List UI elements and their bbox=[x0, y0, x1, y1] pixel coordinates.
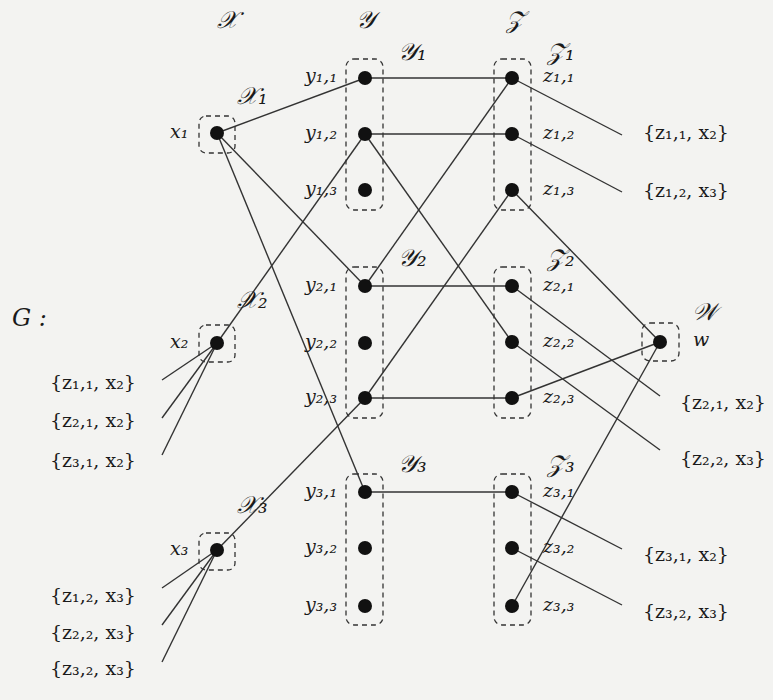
node-z22 bbox=[505, 335, 519, 349]
group-label-Y2: 𝒴₂ bbox=[398, 246, 427, 270]
node-y21 bbox=[358, 279, 372, 293]
label-y21: y₂,₁ bbox=[305, 275, 337, 294]
group-label-X2: 𝒳₂ bbox=[237, 288, 268, 312]
edge-z13-w bbox=[512, 190, 660, 342]
group-label-Y3: 𝒴₃ bbox=[398, 452, 427, 476]
set-label-left-x2-2: {z₂,₁, x₂} bbox=[50, 411, 136, 430]
label-x2: x₂ bbox=[170, 332, 188, 351]
set-label-right-2: {z₁,₂, x₃} bbox=[643, 181, 729, 200]
edges bbox=[162, 78, 660, 662]
label-y31: y₃,₁ bbox=[305, 481, 337, 500]
node-x3 bbox=[210, 543, 224, 557]
node-z13 bbox=[505, 183, 519, 197]
label-y12: y₁,₂ bbox=[305, 123, 337, 142]
set-label-right-4: {z₂,₂, x₃} bbox=[680, 449, 766, 468]
graph-label: G : bbox=[12, 306, 47, 330]
edge-x3-set2 bbox=[162, 550, 217, 625]
edge-z21-set bbox=[512, 286, 660, 396]
node-z33 bbox=[505, 599, 519, 613]
set-label-right-6: {z₃,₂, x₃} bbox=[643, 602, 729, 621]
edge-x2-set2 bbox=[162, 343, 217, 418]
edge-y23-z13 bbox=[365, 190, 512, 398]
set-label-left-x3-3: {z₃,₂, x₃} bbox=[50, 659, 136, 678]
group-boxes bbox=[199, 59, 679, 625]
set-label-right-5: {z₃,₁, x₂} bbox=[643, 545, 729, 564]
label-z32: z₃,₂ bbox=[543, 537, 574, 556]
group-label-Z: 𝒵 bbox=[506, 8, 524, 32]
group-label-W: 𝒲 bbox=[692, 300, 717, 324]
node-z12 bbox=[505, 127, 519, 141]
node-w bbox=[653, 335, 667, 349]
node-y23 bbox=[358, 391, 372, 405]
set-label-left-x2-1: {z₁,₁, x₂} bbox=[50, 373, 136, 392]
edge-x3-y23 bbox=[217, 398, 365, 550]
edge-z22-set bbox=[512, 342, 660, 450]
nodes bbox=[210, 71, 667, 613]
label-y22: y₂,₂ bbox=[305, 332, 337, 351]
set-label-left-x3-1: {z₁,₂, x₃} bbox=[50, 586, 136, 605]
label-z22: z₂,₂ bbox=[543, 331, 574, 350]
node-y33 bbox=[358, 599, 372, 613]
node-y13 bbox=[358, 183, 372, 197]
edge-y21-z11 bbox=[365, 78, 512, 286]
set-label-right-3: {z₂,₁, x₂} bbox=[680, 393, 766, 412]
edge-x1-y21 bbox=[217, 133, 365, 286]
edge-y12-z22 bbox=[365, 134, 512, 342]
label-y32: y₃,₂ bbox=[305, 537, 337, 556]
node-y31 bbox=[358, 485, 372, 499]
label-z31: z₃,₁ bbox=[543, 481, 574, 500]
node-x1 bbox=[210, 126, 224, 140]
edge-z23-w bbox=[512, 342, 660, 398]
label-z13: z₁,₃ bbox=[543, 179, 574, 198]
edge-x2-set3 bbox=[162, 343, 217, 455]
group-label-X1: 𝒳₁ bbox=[237, 84, 268, 108]
node-z32 bbox=[505, 541, 519, 555]
node-y32 bbox=[358, 541, 372, 555]
label-y33: y₃,₃ bbox=[305, 595, 337, 614]
group-label-X: 𝒳 bbox=[217, 8, 238, 32]
label-x3: x₃ bbox=[170, 539, 188, 558]
node-x2 bbox=[210, 336, 224, 350]
edge-z33-w bbox=[512, 342, 660, 606]
node-z31 bbox=[505, 485, 519, 499]
node-z11 bbox=[505, 71, 519, 85]
node-z21 bbox=[505, 279, 519, 293]
group-label-X3: 𝒳₃ bbox=[237, 493, 268, 517]
label-y13: y₁,₃ bbox=[305, 179, 337, 198]
label-y23: y₂,₃ bbox=[305, 387, 337, 406]
label-x1: x₁ bbox=[170, 122, 188, 141]
set-label-right-1: {z₁,₁, x₂} bbox=[643, 123, 729, 142]
group-label-Y: 𝒴 bbox=[356, 8, 375, 32]
bipartite-graph-diagram: 𝒳 𝒴 𝒵 𝒳₁ 𝒳₂ 𝒳₃ 𝒴₁ 𝒴₂ 𝒴₃ 𝒵₁ 𝒵₂ 𝒵₃ 𝒲 G : x… bbox=[0, 0, 773, 700]
label-z21: z₂,₁ bbox=[543, 275, 574, 294]
label-w: w bbox=[693, 330, 709, 349]
group-label-Z1: 𝒵₁ bbox=[547, 40, 575, 64]
label-z23: z₂,₃ bbox=[543, 387, 574, 406]
node-z23 bbox=[505, 391, 519, 405]
label-z11: z₁,₁ bbox=[543, 66, 574, 85]
group-label-Z3: 𝒵₃ bbox=[547, 452, 575, 476]
node-y11 bbox=[358, 71, 372, 85]
label-z33: z₃,₃ bbox=[543, 595, 574, 614]
label-y11: y₁,₁ bbox=[305, 66, 337, 85]
group-label-Y1: 𝒴₁ bbox=[398, 40, 427, 64]
edge-x3-set3 bbox=[162, 550, 217, 662]
label-z12: z₁,₂ bbox=[543, 123, 574, 142]
set-label-left-x2-3: {z₃,₁, x₂} bbox=[50, 451, 136, 470]
node-y22 bbox=[358, 336, 372, 350]
node-y12 bbox=[358, 127, 372, 141]
group-label-Z2: 𝒵₂ bbox=[547, 246, 575, 270]
set-label-left-x3-2: {z₂,₂, x₃} bbox=[50, 623, 136, 642]
